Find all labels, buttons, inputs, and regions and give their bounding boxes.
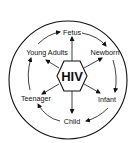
arrow-child-to-teenager <box>38 104 60 121</box>
node-fetus: Fetus <box>63 28 81 37</box>
node-child: Child <box>64 117 80 126</box>
arrow-hiv-to-infant <box>84 84 100 93</box>
node-young-adults: Young Adults <box>26 48 68 57</box>
arrow-infant-to-child <box>86 108 108 121</box>
node-teenager: Teenager <box>21 94 52 103</box>
arrow-hiv-to-teenager <box>42 84 59 94</box>
arrow-hiv-to-young-adults <box>46 60 59 68</box>
node-newborn: Newborn <box>91 48 120 57</box>
hiv-lifecycle-diagram: HIV Fetus Newborn Infant Child Teenager … <box>0 0 135 143</box>
node-infant: Infant <box>98 95 116 104</box>
arrow-young-adults-to-fetus <box>38 32 60 44</box>
hiv-label: HIV <box>61 69 83 84</box>
arrow-newborn-to-infant <box>113 60 116 92</box>
arrow-fetus-to-newborn <box>82 33 106 46</box>
arrow-hiv-to-newborn <box>84 58 102 68</box>
arrow-teenager-to-young-adults <box>28 58 31 90</box>
